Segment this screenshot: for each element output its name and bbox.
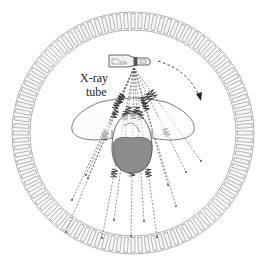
detector-element xyxy=(15,151,30,158)
detector-element xyxy=(236,116,251,122)
photon-icon xyxy=(110,169,117,178)
detector-element xyxy=(235,151,250,158)
detector-element xyxy=(109,235,116,250)
detector-element xyxy=(138,237,143,252)
detector-element xyxy=(131,14,135,29)
detector-element xyxy=(101,17,109,33)
diagram-canvas xyxy=(0,0,263,266)
detector-element xyxy=(109,15,116,30)
detector-element xyxy=(14,116,29,122)
detector-element xyxy=(123,237,128,252)
xray-tube xyxy=(109,55,150,67)
rotation-arrow xyxy=(158,61,202,101)
detector-element xyxy=(14,144,29,150)
patient-head xyxy=(112,113,152,173)
detector-element xyxy=(238,131,253,135)
detector-element xyxy=(234,157,250,165)
tube-label-line2: tube xyxy=(86,86,107,98)
detector-element xyxy=(237,138,252,143)
detector-element xyxy=(144,236,150,251)
shaded-region xyxy=(113,137,152,173)
detector-element xyxy=(138,14,143,29)
detector-element xyxy=(235,109,250,116)
tube-label-line1: X-ray xyxy=(80,72,108,84)
detector-element xyxy=(151,15,158,30)
detector-element xyxy=(157,234,165,250)
detector-element xyxy=(14,138,29,143)
detector-element xyxy=(17,101,33,109)
detector-element xyxy=(144,14,150,29)
detector-element xyxy=(14,123,29,128)
detector-element xyxy=(157,17,165,33)
detector-element xyxy=(123,14,128,29)
detector-element xyxy=(116,236,122,251)
detector-element xyxy=(14,131,29,135)
detector-element xyxy=(234,101,250,109)
detector-element xyxy=(116,14,122,29)
detector-element xyxy=(236,144,251,150)
ct-diagram: X-ray tube xyxy=(0,0,263,266)
detector-element xyxy=(237,123,252,128)
detector-element xyxy=(101,234,109,250)
detector-element xyxy=(17,157,33,165)
detector-element xyxy=(15,109,30,116)
detector-element xyxy=(131,238,135,253)
